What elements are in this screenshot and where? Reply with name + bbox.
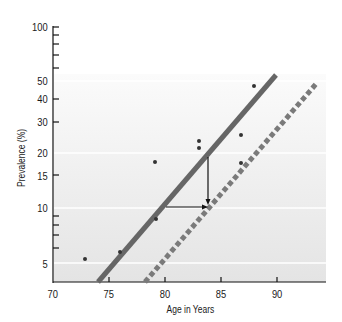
ytick-15: 15	[37, 170, 48, 182]
xtick-90: 90	[272, 288, 283, 300]
data-point	[83, 257, 87, 261]
xtick-80: 80	[160, 288, 171, 300]
chart-svg: 100 50 40 30 20 15 10 5 70 75 80 85 90 A…	[0, 0, 342, 322]
x-axis-label: Age in Years	[167, 304, 215, 315]
data-point	[252, 84, 256, 88]
y-axis-label: Prevalence (%)	[16, 129, 27, 187]
data-point	[197, 139, 201, 143]
chart: 100 50 40 30 20 15 10 5 70 75 80 85 90 A…	[0, 0, 342, 322]
y-tick-labels: 100 50 40 30 20 15 10 5	[32, 21, 48, 270]
xtick-70: 70	[48, 288, 59, 300]
x-tick-labels: 70 75 80 85 90	[48, 288, 283, 300]
xtick-85: 85	[216, 288, 227, 300]
data-point	[197, 146, 201, 150]
ytick-20: 20	[37, 147, 48, 159]
data-point	[153, 160, 157, 164]
data-point	[118, 250, 122, 254]
ytick-10: 10	[37, 202, 48, 214]
ytick-100: 100	[32, 21, 48, 33]
xtick-75: 75	[104, 288, 115, 300]
ytick-40: 40	[37, 93, 48, 105]
ytick-50: 50	[37, 75, 48, 87]
ytick-5: 5	[42, 258, 47, 270]
ytick-30: 30	[37, 116, 48, 128]
data-point	[239, 161, 243, 165]
data-point	[154, 217, 158, 221]
data-point	[239, 133, 243, 137]
